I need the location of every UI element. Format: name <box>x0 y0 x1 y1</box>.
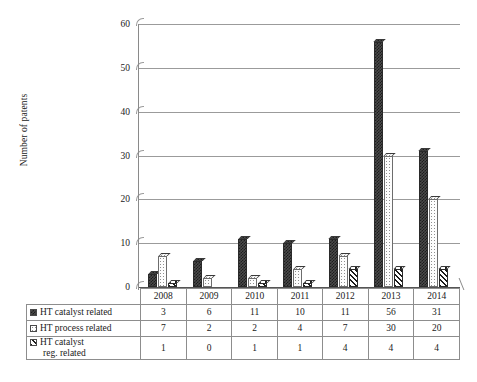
table-cell-2014-series2: 20 <box>414 321 460 337</box>
legend-label-text: HT process related <box>40 323 112 333</box>
table-row: HT process related722473020 <box>27 321 460 337</box>
table-header-2012: 2012 <box>322 289 368 305</box>
table-cell-2013-series2: 30 <box>368 321 414 337</box>
bar-2009-series1 <box>193 261 202 287</box>
table-header-2010: 2010 <box>232 289 278 305</box>
legend-swatch-series3-icon <box>30 339 37 346</box>
y-tick-label-50: 50 <box>104 63 130 73</box>
bar-2008-series1 <box>148 274 157 287</box>
bar-2011-series3 <box>303 283 312 287</box>
bar-cap-2011-series3 <box>303 280 315 283</box>
bar-cap-2012-series2 <box>339 253 351 256</box>
y-axis-tick-labels: 0102030405060 <box>104 20 130 290</box>
table-header-2013: 2013 <box>368 289 414 305</box>
bar-cap-2013-series2 <box>384 153 396 156</box>
table-header-2011: 2011 <box>278 289 323 305</box>
table-cell-2011-series3: 1 <box>278 337 323 360</box>
table-cell-2012-series2: 7 <box>322 321 368 337</box>
table-cell-2010-series2: 2 <box>232 321 278 337</box>
bar-2011-series2 <box>293 269 302 287</box>
bar-2014-series3 <box>439 269 448 287</box>
bar-cap-2011-series1 <box>283 240 295 243</box>
legend-label-text-line2: reg. related <box>30 348 140 359</box>
bar-2010-series3 <box>258 283 267 287</box>
bar-group-2012 <box>321 20 366 290</box>
bar-cap-2010-series1 <box>238 236 250 239</box>
bar-cap-2009-series1 <box>193 258 205 261</box>
bar-2012-series1 <box>329 239 338 287</box>
y-tick-label-60: 60 <box>104 19 130 29</box>
bar-2008-series2 <box>158 256 167 287</box>
bar-cap-2013-series1 <box>374 39 386 42</box>
bar-2011-series1 <box>283 243 292 287</box>
table-cell-2010-series3: 1 <box>232 337 278 360</box>
bar-cap-2014-series1 <box>419 148 431 151</box>
table-row: HT catalyst related361110115631 <box>27 305 460 321</box>
bar-2008-series3 <box>168 283 177 287</box>
chart-figure: Number of patents 0102030405060 20082009… <box>0 0 477 382</box>
bar-2010-series2 <box>248 278 257 287</box>
bar-2014-series2 <box>429 199 438 287</box>
plot-area <box>136 20 462 290</box>
bar-group-2014 <box>411 20 456 290</box>
y-axis-title: Number of patents <box>19 70 29 190</box>
bar-2013-series2 <box>384 156 393 288</box>
table-cell-2009-series2: 2 <box>186 321 232 337</box>
bar-group-2009 <box>185 20 230 290</box>
legend-label-text: HT catalyst <box>40 337 84 347</box>
bar-2013-series1 <box>374 42 383 287</box>
legend-swatch-series1-icon <box>30 309 37 316</box>
table-cell-2013-series1: 56 <box>368 305 414 321</box>
bar-group-2011 <box>275 20 320 290</box>
bar-2013-series3 <box>394 269 403 287</box>
table-cell-2013-series3: 4 <box>368 337 414 360</box>
bar-cap-2014-series2 <box>429 196 441 199</box>
table-cell-2012-series1: 11 <box>322 305 368 321</box>
bar-groups <box>136 20 462 290</box>
bar-group-2010 <box>230 20 275 290</box>
legend-label-text: HT catalyst related <box>40 307 112 317</box>
bar-2014-series1 <box>419 151 428 287</box>
y-tick-label-40: 40 <box>104 107 130 117</box>
series-legend-label-2: HT process related <box>27 321 141 337</box>
bar-cap-2010-series2 <box>248 275 260 278</box>
bar-2012-series2 <box>339 256 348 287</box>
table-cell-2009-series3: 0 <box>186 337 232 360</box>
table-header-2014: 2014 <box>414 289 460 305</box>
bar-cap-2009-series2 <box>203 275 215 278</box>
table-row: HT catalystreg. related1011444 <box>27 337 460 360</box>
table-header-row: 2008200920102011201220132014 <box>27 289 460 305</box>
table-cell-2008-series1: 3 <box>141 305 187 321</box>
bar-cap-2008-series2 <box>158 253 170 256</box>
table-cell-2014-series1: 31 <box>414 305 460 321</box>
data-table: 2008200920102011201220132014HT catalyst … <box>26 288 460 360</box>
legend-swatch-series2-icon <box>30 325 37 332</box>
bar-cap-2010-series3 <box>258 280 270 283</box>
table-cell-2009-series1: 6 <box>186 305 232 321</box>
table-cell-2008-series2: 7 <box>141 321 187 337</box>
y-tick-label-30: 30 <box>104 151 130 161</box>
table-corner-cell <box>27 289 141 305</box>
table-cell-2010-series1: 11 <box>232 305 278 321</box>
table-cell-2011-series2: 4 <box>278 321 323 337</box>
y-tick-label-20: 20 <box>104 194 130 204</box>
series-legend-label-1: HT catalyst related <box>27 305 141 321</box>
series-legend-label-3: HT catalystreg. related <box>27 337 141 360</box>
bar-cap-2008-series3 <box>168 280 180 283</box>
bar-group-2013 <box>366 20 411 290</box>
table-cell-2012-series3: 4 <box>322 337 368 360</box>
table-header-2009: 2009 <box>186 289 232 305</box>
table-cell-2011-series1: 10 <box>278 305 323 321</box>
table-cell-2014-series3: 4 <box>414 337 460 360</box>
bar-2010-series1 <box>238 239 247 287</box>
bar-cap-2012-series1 <box>329 236 341 239</box>
bar-group-2008 <box>140 20 185 290</box>
y-tick-label-10: 10 <box>104 238 130 248</box>
bar-2009-series2 <box>203 278 212 287</box>
bar-2012-series3 <box>349 269 358 287</box>
table-header-2008: 2008 <box>141 289 187 305</box>
table-cell-2008-series3: 1 <box>141 337 187 360</box>
